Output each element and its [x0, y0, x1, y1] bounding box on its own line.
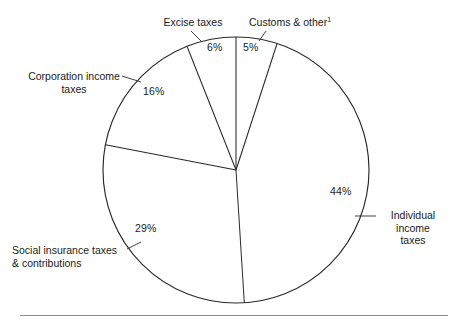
slice-boundary-customs-individual [236, 44, 277, 171]
value-label-corporation: 16% [143, 85, 164, 97]
value-label-excise: 6% [207, 41, 222, 53]
slice-boundary-social-corporation [105, 145, 236, 170]
slice-boundary-individual-social [236, 170, 244, 303]
footnote-marker-icon: 1 [327, 16, 331, 23]
pie-chart-graphic [0, 0, 452, 326]
label-social-insurance-taxes: Social insurance taxes & contributions [12, 244, 158, 269]
slice-boundary-corporation-excise [187, 46, 236, 170]
label-customs-other-text: Customs & other [249, 16, 327, 28]
label-individual-income-taxes: Individual income taxes [378, 209, 448, 247]
figure-canvas: Excise taxes Customs & other1 Corporatio… [0, 0, 452, 326]
value-label-individual: 44% [330, 185, 351, 197]
value-label-customs: 5% [243, 41, 258, 53]
label-excise-taxes: Excise taxes [145, 16, 241, 29]
label-customs-other: Customs & other1 [249, 16, 369, 29]
value-label-social: 29% [135, 222, 156, 234]
label-corporation-income-taxes: Corporation income taxes [18, 70, 130, 95]
leader-line-excise [191, 31, 201, 41]
